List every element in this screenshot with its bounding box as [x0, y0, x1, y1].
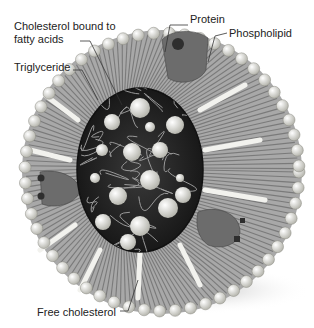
label-phospholipid: Phospholipid	[229, 27, 292, 40]
label-triglyceride: Triglyceride	[14, 61, 70, 74]
label-cholesterol-bound: Cholesterol bound to fatty acids	[14, 20, 124, 46]
lipoprotein-diagram	[0, 0, 314, 328]
label-protein: Protein	[190, 13, 225, 26]
label-free-cholesterol: Free cholesterol	[37, 306, 116, 319]
